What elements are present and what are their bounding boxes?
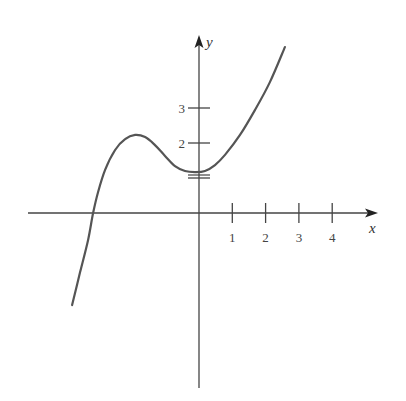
axes: 1234 23 x y <box>28 34 378 388</box>
x-ticks: 1234 <box>229 203 336 245</box>
y-ticks: 23 <box>179 101 211 179</box>
function-graph: 1234 23 x y <box>0 0 406 401</box>
x-tick-label: 3 <box>296 230 303 245</box>
y-tick-label: 3 <box>179 101 186 116</box>
x-tick-label: 2 <box>262 230 269 245</box>
y-tick-label: 2 <box>179 136 186 151</box>
y-axis-label: y <box>204 34 213 50</box>
x-tick-label: 4 <box>329 230 336 245</box>
function-curve <box>72 47 285 305</box>
x-tick-label: 1 <box>229 230 236 245</box>
x-axis-label: x <box>368 220 376 236</box>
